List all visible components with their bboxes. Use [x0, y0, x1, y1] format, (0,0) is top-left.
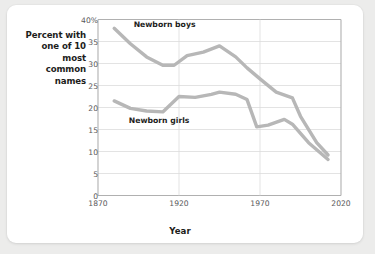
series-label-newborn-girls: Newborn girls — [129, 116, 190, 125]
y-tick-label: 20 — [72, 103, 98, 112]
y-tick-label: 25 — [72, 81, 98, 90]
y-tick-label: 35 — [72, 37, 98, 46]
y-tick-label: 30 — [72, 59, 98, 68]
y-tick-label: 5 — [72, 169, 98, 178]
chart-figure: Percent with one of 10 most common names… — [0, 0, 375, 254]
x-tick-label: 1920 — [169, 199, 188, 208]
x-tick-label: 1870 — [88, 199, 107, 208]
y-tick-label: 40% — [72, 15, 98, 24]
x-tick-label: 1970 — [250, 199, 269, 208]
x-axis-title: Year — [169, 226, 190, 236]
y-tick-label: 15 — [72, 125, 98, 134]
y-axis-ticks: 0510152025303540% — [60, 0, 98, 254]
series-label-newborn-boys: Newborn boys — [134, 20, 196, 29]
y-tick-label: 10 — [72, 147, 98, 156]
x-tick-label: 2020 — [331, 199, 350, 208]
